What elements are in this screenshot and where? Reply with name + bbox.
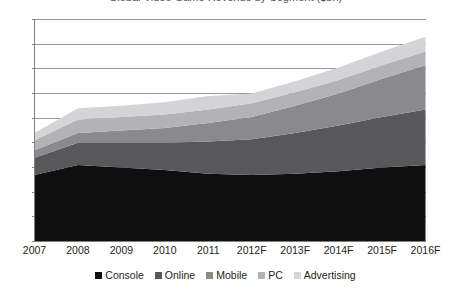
x-tick-label: 2014F xyxy=(324,244,354,256)
legend-item-console[interactable]: Console xyxy=(95,270,144,281)
legend-item-advertising[interactable]: Advertising xyxy=(294,270,356,281)
x-tick-label: 2013F xyxy=(280,244,310,256)
legend-item-online[interactable]: Online xyxy=(155,270,195,281)
x-tick-label: 2015F xyxy=(367,244,397,256)
x-tick-label: 2007 xyxy=(23,244,46,256)
legend-swatch-icon xyxy=(206,272,213,279)
x-tick-label: 2016F xyxy=(411,244,441,256)
legend-item-label: PC xyxy=(268,270,283,281)
legend-swatch-icon xyxy=(95,272,102,279)
legend-swatch-icon xyxy=(294,272,301,279)
x-tick-label: 2011 xyxy=(197,244,220,256)
legend-item-label: Advertising xyxy=(304,270,356,281)
stacked-area-chart: Global Video Game Revenue by Segment ($b… xyxy=(0,0,451,289)
legend-swatch-icon xyxy=(258,272,265,279)
x-tick-label: 2008 xyxy=(66,244,89,256)
stacked-series-group xyxy=(35,37,426,242)
area-series-console xyxy=(35,165,426,241)
x-tick-label: 2012F xyxy=(237,244,267,256)
legend-item-label: Mobile xyxy=(216,270,247,281)
x-tick-label: 2010 xyxy=(153,244,176,256)
x-axis: 200720082009201020112012F2013F2014F2015F… xyxy=(0,244,451,260)
legend-item-label: Console xyxy=(105,270,144,281)
legend-item-mobile[interactable]: Mobile xyxy=(206,270,247,281)
x-tick-label: 2009 xyxy=(110,244,133,256)
chart-legend: ConsoleOnlineMobilePCAdvertising xyxy=(0,267,451,283)
legend-item-pc[interactable]: PC xyxy=(258,270,283,281)
legend-item-label: Online xyxy=(165,270,195,281)
y-axis: 0102030405060708090 xyxy=(0,0,34,250)
legend-swatch-icon xyxy=(155,272,162,279)
